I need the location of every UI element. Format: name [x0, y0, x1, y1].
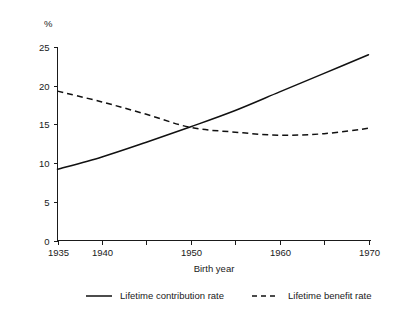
line-chart: % 0510152025 19351940195019601970 Birth …: [0, 0, 420, 319]
legend-label-lifetime-contribution-rate: Lifetime contribution rate: [120, 290, 224, 301]
x-axis-title: Birth year: [194, 263, 235, 274]
y-tick-label: 25: [39, 42, 50, 53]
y-axis-ticks: [54, 48, 58, 242]
x-axis-ticks: [59, 241, 370, 245]
y-tick-label: 0: [44, 236, 49, 247]
chart-figure: % 0510152025 19351940195019601970 Birth …: [0, 0, 420, 319]
x-tick-label: 1950: [181, 247, 202, 258]
x-axis-tick-labels: 19351940195019601970: [48, 247, 380, 258]
x-tick-label: 1970: [359, 247, 380, 258]
y-tick-label: 10: [39, 158, 50, 169]
x-tick-label: 1940: [92, 247, 113, 258]
x-tick-label: 1935: [48, 247, 69, 258]
y-tick-label: 5: [44, 197, 49, 208]
y-axis-unit-label: %: [44, 18, 53, 29]
series-line-lifetime-contribution-rate: [58, 55, 369, 170]
chart-legend: Lifetime contribution rate Lifetime bene…: [86, 290, 371, 301]
y-tick-label: 20: [39, 81, 50, 92]
y-tick-label: 15: [39, 119, 50, 130]
x-tick-label: 1960: [270, 247, 291, 258]
series-line-lifetime-benefit-rate: [58, 91, 369, 135]
legend-label-lifetime-benefit-rate: Lifetime benefit rate: [288, 290, 371, 301]
y-axis-tick-labels: 0510152025: [39, 42, 50, 247]
